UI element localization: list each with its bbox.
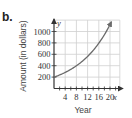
y-tick-label: 600 bbox=[38, 49, 51, 59]
y-tick-label: 800 bbox=[38, 38, 51, 48]
y-tick-label: 400 bbox=[38, 61, 51, 71]
y-axis-title: Amount (in dollars) bbox=[18, 20, 28, 92]
growth-curve bbox=[54, 22, 111, 77]
y-tick-label: 200 bbox=[38, 72, 51, 82]
x-axis-title: Year bbox=[74, 105, 91, 115]
x-tick-label: 4 bbox=[63, 92, 68, 102]
y-variable-label: y bbox=[56, 18, 61, 28]
x-tick-label: 8 bbox=[74, 92, 78, 102]
exponential-growth-chart: 200400600800100048121620x Amount (in dol… bbox=[0, 0, 132, 118]
y-tick-label: 1000 bbox=[34, 27, 51, 37]
x-tick-label: 12 bbox=[83, 92, 92, 102]
x-tick-label: 16 bbox=[95, 92, 104, 102]
x-variable-label: x bbox=[112, 92, 117, 102]
grid-lines bbox=[54, 20, 120, 88]
axes bbox=[54, 19, 123, 88]
